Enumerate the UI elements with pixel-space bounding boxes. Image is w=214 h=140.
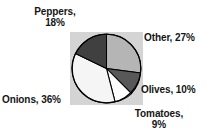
slice-label-olives: Olives, 10% (141, 84, 214, 95)
slice-label-tomatoes: Tomatoes, 9% (126, 108, 192, 130)
pie-slice-other (107, 34, 141, 73)
pie-chart-graphic (70, 32, 143, 105)
pie-chart-figure: Peppers, 18% Other, 27% Olives, 10% Toma… (0, 0, 214, 140)
slice-label-peppers: Peppers, 18% (24, 6, 86, 28)
slice-label-onions: Onions, 36% (2, 94, 72, 105)
slice-label-other: Other, 27% (144, 32, 214, 43)
